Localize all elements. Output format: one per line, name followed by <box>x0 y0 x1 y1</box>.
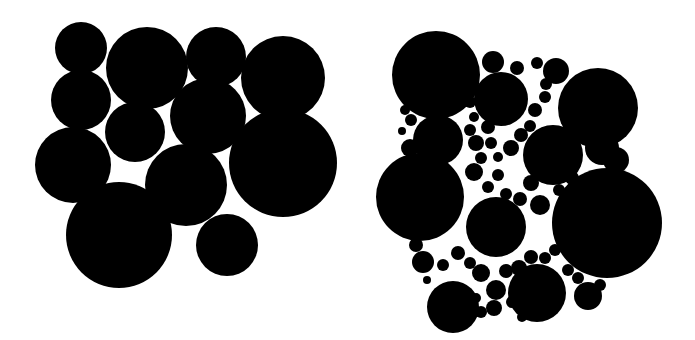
circle <box>427 281 479 333</box>
circle <box>437 259 449 271</box>
circle <box>472 264 490 282</box>
circle <box>412 251 434 273</box>
circle <box>503 140 519 156</box>
circle <box>540 78 552 90</box>
circle <box>469 112 479 122</box>
circle <box>517 312 527 322</box>
circle <box>539 91 551 103</box>
circle <box>549 244 561 256</box>
circle <box>552 168 662 278</box>
circle <box>482 181 494 193</box>
circle <box>539 252 551 264</box>
circle <box>482 51 504 73</box>
circle <box>451 246 465 260</box>
circle <box>475 152 487 164</box>
circle <box>535 134 545 144</box>
circle <box>66 182 172 288</box>
circle <box>468 135 484 151</box>
circle <box>55 22 107 74</box>
circle <box>486 300 502 316</box>
circle <box>464 96 476 108</box>
circle <box>530 195 550 215</box>
circle <box>510 61 524 75</box>
circle <box>523 175 539 191</box>
circle <box>229 109 337 217</box>
circle <box>506 296 518 308</box>
circle <box>423 276 431 284</box>
circle <box>464 124 476 136</box>
circle <box>51 70 111 130</box>
circle <box>400 105 410 115</box>
circle <box>511 260 527 276</box>
circle <box>474 72 528 126</box>
circle <box>562 264 574 276</box>
circle <box>466 197 526 257</box>
circle <box>572 272 584 284</box>
circle <box>528 103 542 117</box>
circle <box>241 36 325 120</box>
circle <box>475 306 487 318</box>
circle <box>524 250 538 264</box>
circle <box>569 189 581 201</box>
circle <box>409 238 423 252</box>
circle <box>405 114 417 126</box>
circle <box>594 279 606 291</box>
circle-packing-figure <box>0 0 695 340</box>
circle <box>565 171 579 185</box>
circle <box>196 214 258 276</box>
circle <box>105 102 165 162</box>
circle <box>486 280 506 300</box>
circle <box>500 188 512 200</box>
circle <box>414 159 426 171</box>
circle <box>531 57 543 69</box>
circle <box>524 120 536 132</box>
circle <box>513 192 527 206</box>
circle <box>471 293 481 303</box>
circle <box>401 139 419 157</box>
circle <box>485 137 497 149</box>
circle <box>553 184 565 196</box>
circle <box>465 163 483 181</box>
circle <box>493 152 503 162</box>
circle <box>499 264 513 278</box>
circle <box>481 120 495 134</box>
circle <box>186 27 246 87</box>
circle <box>492 169 504 181</box>
circle <box>398 127 406 135</box>
